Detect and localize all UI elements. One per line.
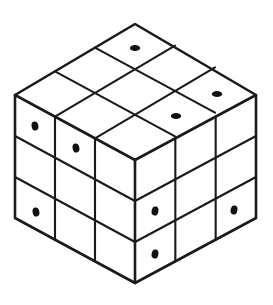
dot-top-r2c2 [171, 113, 181, 119]
cube-drawing [0, 0, 273, 305]
dot-top-r0c1 [130, 45, 140, 51]
isometric-cube-figure [0, 0, 273, 305]
dot-top-r1c2 [212, 91, 222, 97]
